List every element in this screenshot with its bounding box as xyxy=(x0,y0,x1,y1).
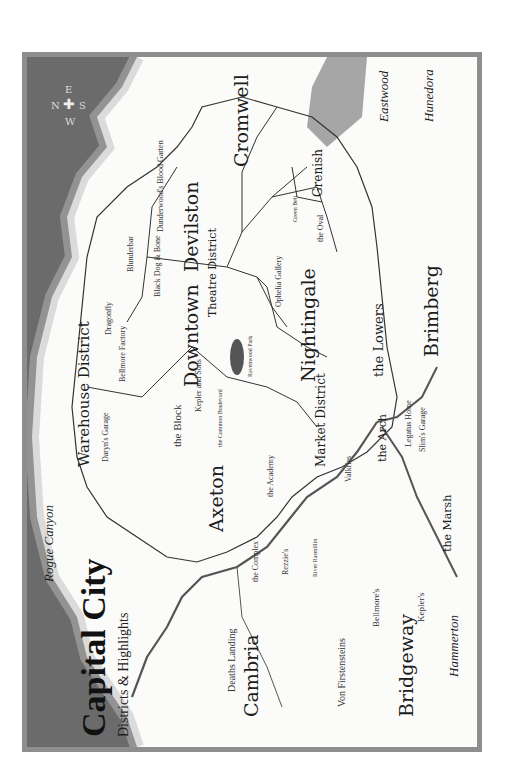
compass-n: N xyxy=(51,100,60,111)
poi-daryns-garage: Daryn's Garage xyxy=(102,412,110,462)
poi-dragonfly: Dragonfly xyxy=(105,302,113,335)
district-devilston: Devilston xyxy=(182,182,201,272)
district-market: Market District xyxy=(315,373,327,467)
poi-black-dog-bone: Black Dog & Bone xyxy=(154,235,162,297)
poi-keplers: Kepler's xyxy=(417,592,426,622)
poi-ravenwood-park: Ravenwood Park xyxy=(247,336,253,377)
district-the-lowers: the Lowers xyxy=(372,303,385,377)
poi-rezzies: Rezzie's xyxy=(282,549,290,575)
region-deaths-landing: Deaths Landing xyxy=(227,628,237,692)
poi-the-academy: the Academy xyxy=(267,455,275,497)
map-subtitle: Districts & Highlights xyxy=(117,613,131,737)
compass-e: E xyxy=(65,84,72,95)
region-eastwood: Eastwood xyxy=(377,71,390,122)
district-axeton: Axeton xyxy=(207,465,226,532)
poi-legatus-home: Legatus Home xyxy=(405,400,413,447)
map-frame: ✚ N E S W Capital City Districts & Highl… xyxy=(22,52,482,752)
compass-w: W xyxy=(65,116,75,127)
poi-valkries: Valkries xyxy=(345,456,353,482)
district-the-arch: the Arch xyxy=(377,414,388,462)
compass-s: S xyxy=(79,100,86,111)
poi-bellmores: Bellmore's xyxy=(372,588,381,627)
region-rogue-canyon: Rogue Canyon xyxy=(42,505,55,582)
region-hammerton: Hammerton xyxy=(447,615,460,677)
district-the-marsh: the Marsh xyxy=(442,495,453,552)
poi-von-firstensteins: Von Firstensteins xyxy=(337,638,347,707)
poi-dunderwoods-blood-garten: Dunderwood's Blood Garten xyxy=(157,140,165,232)
poi-blunderbar: Blunderbar xyxy=(127,236,135,272)
poi-green-belt: Green Belt xyxy=(292,196,298,222)
district-nightingale: Nightingale xyxy=(299,268,318,382)
region-bridgeway: Bridgeway xyxy=(397,614,416,717)
region-brimberg: Brimberg xyxy=(422,265,441,357)
poi-river-rasmillin: River Rasmillin xyxy=(312,539,318,577)
region-hunedora: Hunedora xyxy=(422,69,435,122)
poi-bellmore-factory: Bellmore Factory xyxy=(119,326,127,382)
poi-slims-garage: Slim's Garage xyxy=(419,407,427,452)
district-warehouse: Warehouse District xyxy=(77,321,92,467)
poi-the-complex: the Complex xyxy=(252,541,260,582)
poi-the-block: the Block xyxy=(172,405,183,447)
district-cromwell: Cromwell xyxy=(232,74,251,167)
district-grenish: Grenish xyxy=(312,149,324,197)
compass-rose-icon: ✚ N E S W xyxy=(47,82,87,122)
district-theatre: Theatre District xyxy=(207,228,218,317)
poi-the-oval: the Oval xyxy=(317,215,325,242)
map-paper: ✚ N E S W Capital City Districts & Highl… xyxy=(27,57,477,747)
poi-ophelia-gallery: Ophelia Gallery xyxy=(275,256,283,307)
poi-common-boulevard: the Common Boulevard xyxy=(217,389,223,447)
region-cambria: Cambria xyxy=(242,634,261,717)
map-title: Capital City xyxy=(77,559,111,738)
poi-kepler-and-sons: Kepler and Sons xyxy=(195,359,203,412)
